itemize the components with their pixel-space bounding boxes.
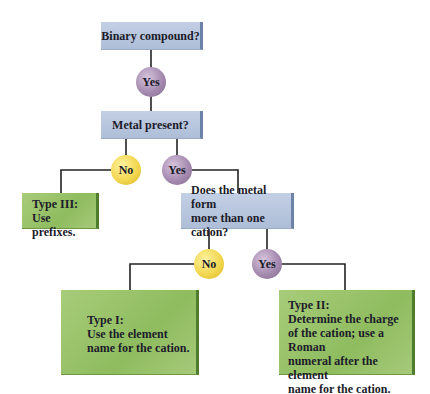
decision-yes-metal: Yes [162, 155, 192, 185]
decision-no-metal: No [111, 155, 141, 185]
question-metal-present: Metal present? [101, 111, 203, 139]
outcome-line: of the cation; use a Roman [288, 326, 412, 354]
outcome-type-i: Type I: Use the element name for the cat… [61, 290, 199, 375]
outcome-title: Type I: [87, 313, 196, 327]
question-label-line2: more than one cation? [191, 211, 291, 239]
decision-label: No [119, 163, 134, 178]
decision-yes-binary: Yes [136, 67, 166, 97]
question-binary-compound: Binary compound? [101, 22, 203, 50]
decision-label: Yes [168, 163, 185, 178]
question-multiple-cations: Does the metal form more than one cation… [181, 193, 294, 229]
outcome-type-ii: Type II: Determine the charge of the cat… [279, 290, 415, 375]
flowchart: Binary compound? Yes Metal present? No Y… [0, 0, 430, 394]
decision-yes-cations: Yes [252, 249, 282, 279]
question-label-line1: Does the metal form [191, 183, 291, 211]
decision-label: Yes [142, 75, 159, 90]
outcome-line: name for the cation. [288, 382, 412, 394]
outcome-line: name for the cation. [87, 341, 196, 355]
outcome-line: Determine the charge [288, 312, 412, 326]
decision-no-cations: No [194, 249, 224, 279]
decision-label: No [202, 257, 217, 272]
outcome-title: Type II: [288, 298, 412, 312]
decision-label: Yes [258, 257, 275, 272]
question-label: Binary compound? [101, 29, 199, 43]
outcome-type-iii: Type III: Use prefixes. [22, 193, 99, 229]
outcome-title: Type III: [32, 197, 96, 211]
outcome-line: Use the element [87, 327, 196, 341]
outcome-line: numeral after the element [288, 354, 412, 382]
question-label: Metal present? [112, 118, 189, 132]
outcome-line: Use prefixes. [32, 211, 96, 239]
